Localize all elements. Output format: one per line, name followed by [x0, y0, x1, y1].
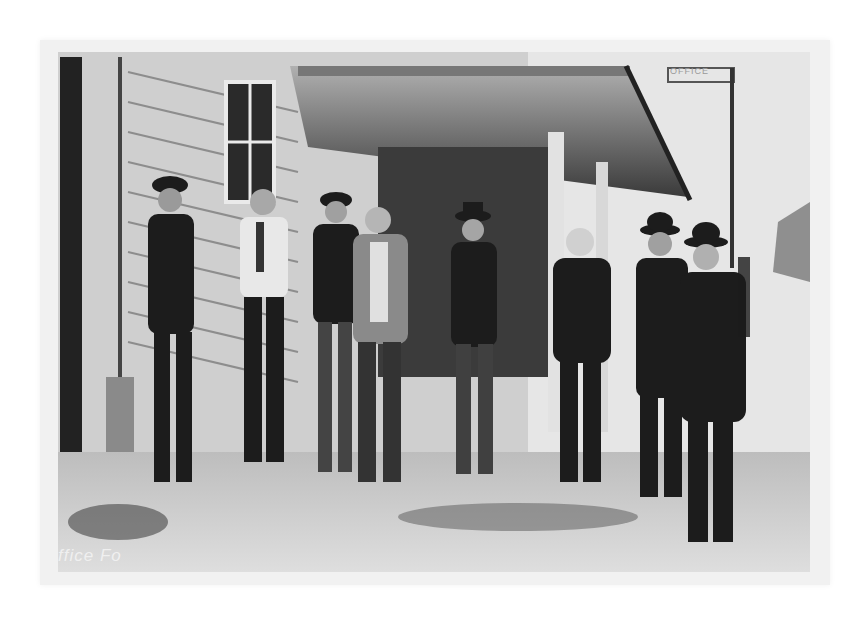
drainpipe: [118, 57, 122, 382]
office-sign-text: OFFICE: [670, 66, 709, 76]
sign-pole: [730, 68, 734, 268]
shadow-patch: [398, 503, 638, 531]
caption-fragment: ffice Fo: [58, 546, 122, 566]
photo-scene: [58, 52, 810, 572]
scene-illustration: [58, 52, 810, 572]
person-9: [738, 257, 750, 337]
left-doorway: [60, 57, 82, 487]
porch-fascia: [298, 66, 630, 76]
